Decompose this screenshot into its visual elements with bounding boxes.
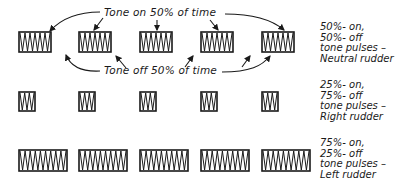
tone-pulse [140,32,172,52]
tone-pulse [201,150,249,171]
tone-pulse [79,92,95,111]
tone-pulse [19,150,67,171]
right-rudder-description: 25%- on, 75%- off tone pulses – Right ru… [320,80,386,122]
tone-pulse [19,32,51,52]
tone-pulse [140,92,156,111]
desc-line: Neutral rudder [320,54,394,65]
tone-off-label: Tone off 50% of time [104,64,217,76]
tone-on-label: Tone on 50% of time [104,6,216,18]
tone-pulse [262,32,294,52]
tone-pulse [262,92,278,111]
tone-pulse [262,150,310,171]
neutral-rudder-description: 50%- on, 50%- off tone pulses – Neutral … [320,22,394,64]
desc-line: 75%- on, [320,138,386,149]
desc-line: Left rudder [320,170,386,181]
desc-line: Right rudder [320,112,386,123]
tone-pulse [19,92,35,111]
tone-pulse [79,150,127,171]
tone-pulse [201,92,217,111]
tone-pulse [201,32,233,52]
desc-line: 50%- on, [320,22,394,33]
left-rudder-description: 75%- on, 25%- off tone pulses – Left rud… [320,138,386,180]
tone-pulse [140,150,188,171]
tone-pulse [79,32,111,52]
desc-line: 25%- on, [320,80,386,91]
